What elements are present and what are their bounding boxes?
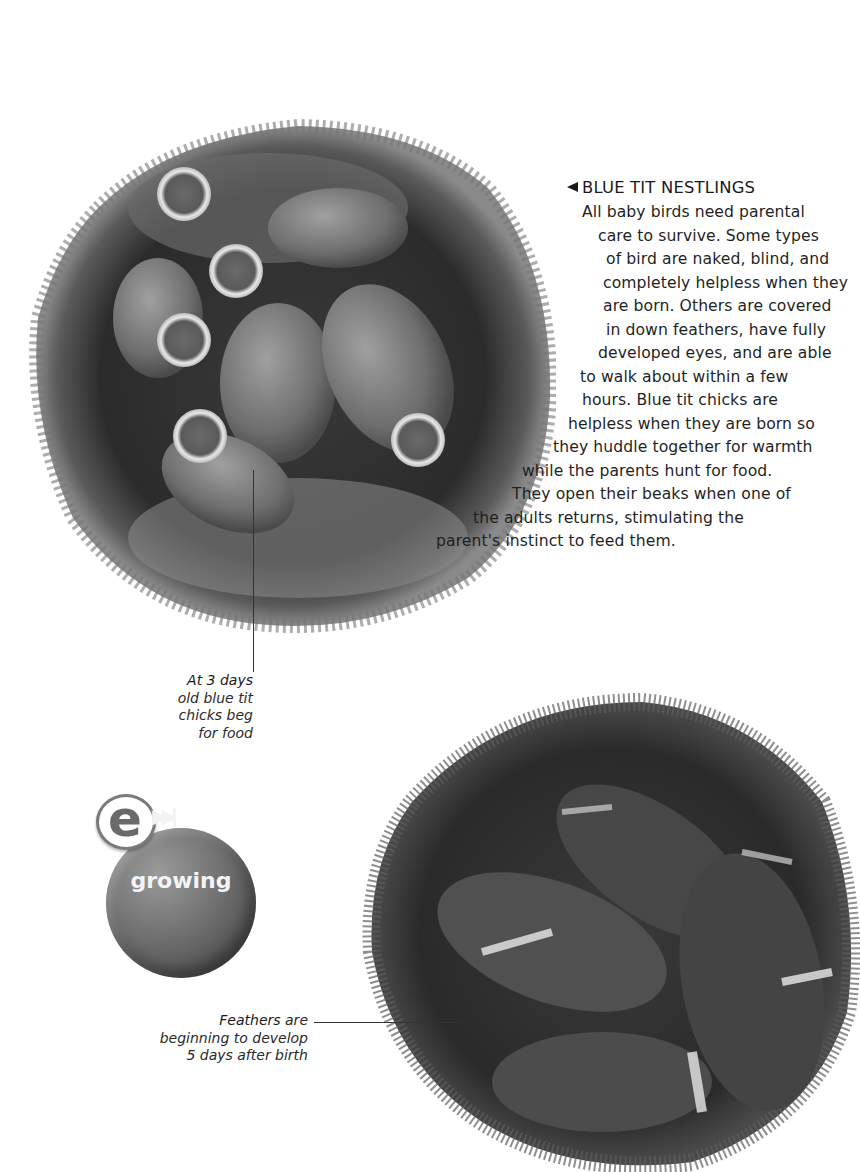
e-link-growing-badge[interactable]: e ▶▶| growing — [92, 790, 262, 950]
caption-line: for food — [150, 725, 253, 743]
body-line: in down feathers, have fully — [606, 320, 826, 340]
body-line: They open their beaks when one of — [512, 484, 791, 504]
leader-line-3-days — [253, 470, 254, 672]
caption-3-days: At 3 days old blue tit chicks beg for fo… — [150, 672, 253, 742]
caption-line: chicks beg — [150, 707, 253, 725]
body-line: hours. Blue tit chicks are — [582, 390, 778, 410]
body-line: the adults returns, stimulating the — [473, 508, 744, 528]
left-pointer-icon — [567, 182, 578, 192]
caption-line: beginning to develop — [130, 1030, 308, 1048]
body-line: All baby birds need parental — [582, 202, 805, 222]
caption-strong: Feathers — [219, 1012, 280, 1028]
fast-forward-icon: ▶▶| — [152, 804, 172, 828]
caption-strong: At 3 days — [150, 672, 253, 690]
caption-feathers: Feathers are beginning to develop 5 days… — [130, 1012, 308, 1065]
section-heading: BLUE TIT NESTLINGS — [567, 178, 755, 198]
leader-line-feathers — [314, 1022, 462, 1023]
body-line: developed eyes, and are able — [598, 343, 832, 363]
nest-photo-5-days — [352, 682, 860, 1172]
caption-text: are — [281, 1012, 308, 1028]
body-line: they huddle together for warmth — [553, 437, 812, 457]
body-line: completely helpless when they — [603, 273, 848, 293]
caption-line: 5 days after birth — [130, 1047, 308, 1065]
body-line: of bird are naked, blind, and — [606, 249, 829, 269]
body-line: parent's instinct to feed them. — [436, 531, 676, 551]
e-logo-icon: e — [96, 794, 156, 850]
body-line: care to survive. Some types — [598, 226, 819, 246]
body-line: while the parents hunt for food. — [522, 461, 772, 481]
heading-text: BLUE TIT NESTLINGS — [582, 178, 755, 197]
badge-label: growing — [106, 868, 256, 893]
body-line: are born. Others are covered — [603, 296, 831, 316]
badge-disc — [106, 828, 256, 978]
body-line: to walk about within a few — [580, 367, 788, 387]
caption-line: old blue tit — [150, 690, 253, 708]
nest-photo-3-days — [28, 118, 556, 638]
body-line: helpless when they are born so — [568, 414, 815, 434]
